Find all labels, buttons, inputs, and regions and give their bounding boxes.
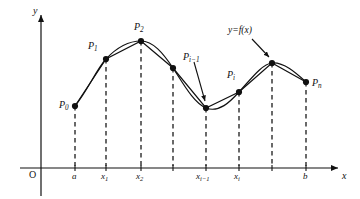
point-mid2 xyxy=(269,60,275,66)
point-label-P1-sub: 1 xyxy=(94,45,98,53)
curve-polygonal-approximation-figure: y x O a x1 x2 xi−1 xi b P0 P1 P2 Pi−1 Pi… xyxy=(0,0,360,199)
point-label-Pi: Pi xyxy=(227,70,235,82)
point-label-P0: P0 xyxy=(59,100,69,112)
point-label-Pi-sub: i xyxy=(233,74,235,82)
tick-label-x1: x1 xyxy=(101,172,108,182)
tick-label-b: b xyxy=(303,172,308,181)
figure-canvas xyxy=(0,0,360,199)
tick-label-x2: x2 xyxy=(136,172,143,182)
tick-label-x1-sub: 1 xyxy=(105,175,108,182)
point-label-Pn-sub: n xyxy=(318,82,322,90)
point-P0 xyxy=(72,103,78,109)
x-axis-label: x xyxy=(342,171,346,181)
point-label-P1: P1 xyxy=(88,41,98,53)
function-label-leader-arrow xyxy=(252,39,269,57)
tick-label-a-text: a xyxy=(72,171,77,181)
point-label-P0-sub: 0 xyxy=(65,104,69,112)
tick-label-xi-1: xi−1 xyxy=(196,172,209,182)
point-label-Pi-1: Pi−1 xyxy=(183,52,200,64)
point-label-Pn: Pn xyxy=(312,78,322,90)
partition-points-group xyxy=(72,38,309,111)
point-P1 xyxy=(103,56,109,62)
tick-label-b-text: b xyxy=(303,171,308,181)
tick-label-a: a xyxy=(72,172,77,181)
y-axis-label: y xyxy=(33,6,37,16)
tick-label-x2-sub: 2 xyxy=(140,175,143,182)
function-label: y=f(x) xyxy=(228,26,252,36)
tick-label-xi: xi xyxy=(234,172,240,182)
point-label-P2-sub: 2 xyxy=(140,26,144,34)
point-label-Pi-1-sub: i−1 xyxy=(189,56,199,64)
point-label-P2: P2 xyxy=(134,22,144,34)
point-P2 xyxy=(138,38,144,44)
point-Pi xyxy=(236,89,242,95)
function-label-text: y=f(x) xyxy=(228,25,252,35)
tick-label-xi-sub: i xyxy=(238,175,240,182)
point-mid1 xyxy=(170,65,176,71)
point-Pi-1 xyxy=(203,105,209,111)
tick-label-xi-1-sub: i−1 xyxy=(200,175,209,182)
origin-label: O xyxy=(29,170,36,180)
point-Pn xyxy=(303,79,309,85)
